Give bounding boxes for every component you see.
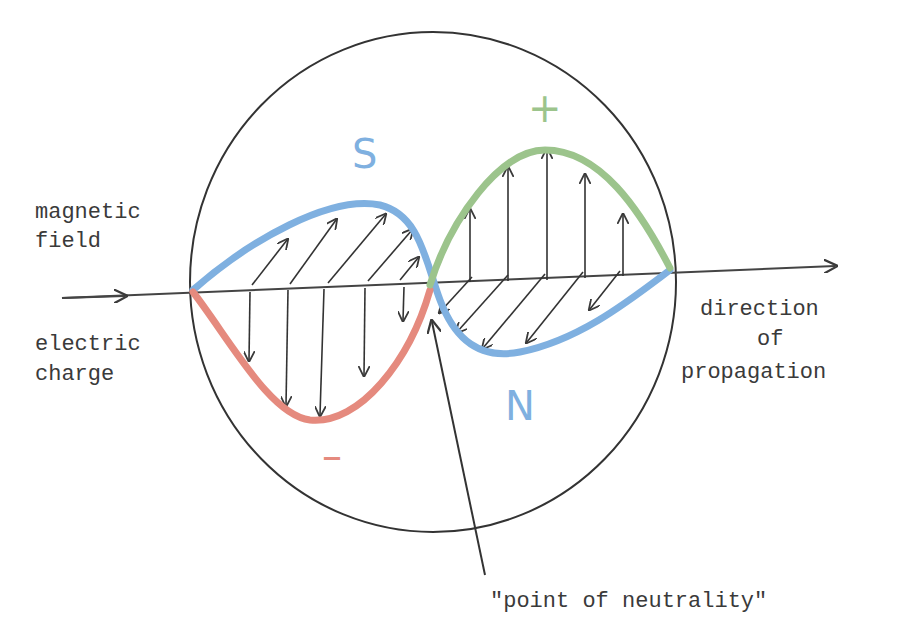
north-pole-symbol: N	[505, 383, 535, 429]
propagation-axis	[62, 266, 835, 298]
positive-symbol: +	[528, 85, 562, 131]
electric-charge-label-2: charge	[35, 362, 114, 387]
negative-symbol: –	[322, 433, 342, 479]
direction-label-2: of	[757, 327, 783, 352]
electric-charge-label: electric	[35, 332, 141, 357]
neutrality-label: "point of neutrality"	[490, 589, 767, 614]
electric-wave-negative	[193, 290, 430, 420]
magnetic-field-label-2: field	[35, 229, 101, 254]
south-pole-symbol: S	[352, 131, 377, 177]
direction-label: direction	[700, 297, 819, 322]
em-wave-diagram: S N + – magnetic field electric charge d…	[0, 0, 908, 633]
direction-label-3: propagation	[681, 360, 826, 385]
axis-entry-arrow	[62, 296, 125, 298]
electric-wave-positive	[430, 150, 670, 285]
magnetic-field-label: magnetic	[35, 200, 141, 225]
neutrality-pointer	[432, 322, 485, 575]
